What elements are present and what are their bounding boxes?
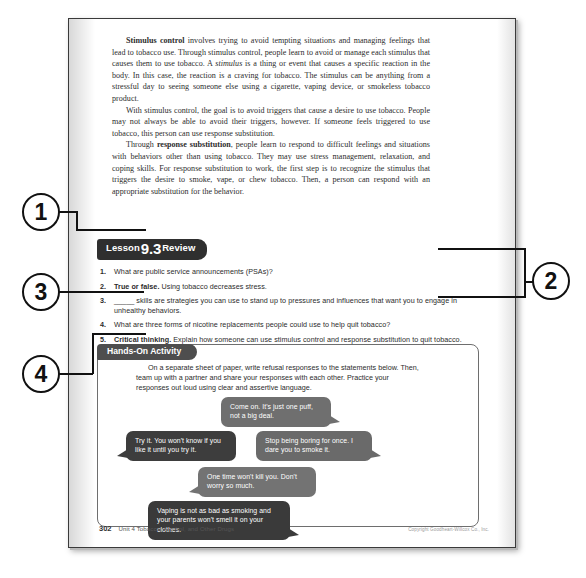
speech-bubble-1: Come on. It's just one puff, not a big d… [221, 397, 331, 427]
speech-bubble-3: Stop being boring for once. I dare you t… [256, 431, 372, 461]
body-paragraph: With stimulus control, the goal is to av… [112, 105, 430, 140]
body-paragraph: Through response substitution, people le… [112, 139, 430, 197]
footer-copyright: Copyright Goodheart-Willcox Co., Inc. [408, 527, 489, 532]
review-question-lead: Critical thinking. [114, 335, 171, 344]
lesson-review-tab-word-left: Lesson [106, 242, 140, 253]
leader-line-4-vertical [92, 333, 94, 374]
review-question: 2.True or false. Using tobacco decreases… [97, 282, 487, 292]
review-question: 4.What are three forms of nicotine repla… [97, 320, 487, 330]
review-question-text: What are three forms of nicotine replace… [114, 320, 390, 329]
review-question-number: 2. [100, 282, 106, 292]
callout-marker-4: 4 [22, 355, 60, 393]
leader-line-1-horizontal [76, 229, 146, 231]
lesson-review-tab-word-right: Review [162, 242, 195, 253]
speech-bubble-group: Come on. It's just one puff, not a big d… [98, 397, 478, 523]
callout-marker-1: 1 [22, 193, 60, 231]
lesson-body-text: Stimulus control involves trying to avoi… [112, 35, 430, 197]
review-question-text: _____ skills are strategies you can use … [114, 296, 457, 315]
speech-bubble-2: Try it. You won't know if you like it un… [126, 431, 236, 461]
hands-on-activity-instructions: On a separate sheet of paper, write refu… [136, 363, 424, 392]
leader-line-2-bracket [524, 248, 526, 298]
leader-line-2-top [438, 248, 526, 250]
review-question-lead: True or false. [114, 282, 159, 291]
lesson-review-tab-number: 9.3 [140, 240, 162, 257]
review-question-text: Using tobacco decreases stress. [159, 282, 266, 291]
review-question-text: What are public service announcements (P… [114, 267, 273, 276]
textbook-page: Stimulus control involves trying to avoi… [68, 18, 516, 548]
callout-marker-3: 3 [22, 273, 60, 311]
leader-line-4-horizontal [92, 333, 146, 335]
review-question-text: Explain how someone can use stimulus con… [171, 335, 461, 344]
footer-unit-text: Unit 4 Tobacco, Alcohol, and Other Drugs [119, 525, 235, 532]
review-question: 1.What are public service announcements … [97, 267, 487, 277]
leader-line-1 [59, 211, 77, 213]
hands-on-activity-box: Hands-On Activity On a separate sheet of… [97, 344, 479, 527]
hands-on-activity-tab: Hands-On Activity [97, 344, 197, 360]
review-question-number: 1. [100, 267, 106, 277]
leader-line-1-vertical [76, 211, 78, 231]
body-paragraph: Stimulus control involves trying to avoi… [112, 35, 430, 105]
lesson-review-section: Lesson9.3Review 1.What are public servic… [97, 239, 487, 350]
speech-bubble-4: One time won't kill you. Don't worry so … [198, 467, 316, 497]
leader-line-2-bottom [438, 296, 526, 298]
page-footer: 302 Unit 4 Tobacco, Alcohol, and Other D… [99, 524, 489, 533]
page-number: 302 [99, 524, 112, 533]
leader-line-4 [59, 373, 93, 375]
leader-line-3 [59, 291, 144, 293]
lesson-review-tab: Lesson9.3Review [97, 239, 207, 260]
review-question: 3._____ skills are strategies you can us… [97, 296, 487, 315]
annotated-textbook-page: Stimulus control involves trying to avoi… [0, 0, 586, 578]
speech-bubble-5: Vaping is not as bad as smoking and your… [148, 501, 290, 540]
callout-marker-2: 2 [532, 262, 570, 300]
review-question-number: 3. [100, 296, 106, 306]
review-question-number: 4. [100, 320, 106, 330]
review-question-list: 1.What are public service announcements … [97, 267, 487, 345]
